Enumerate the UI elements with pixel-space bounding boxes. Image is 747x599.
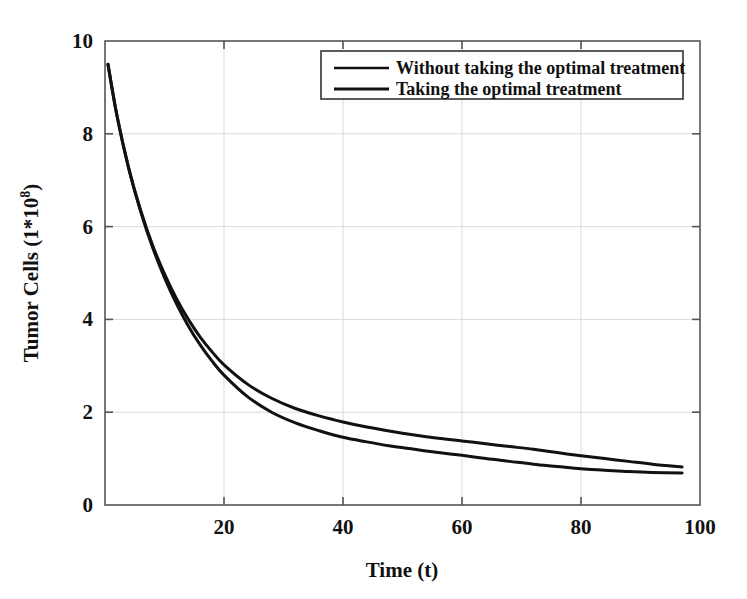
y-axis-title-base: Tumor Cells (1*10 xyxy=(19,198,43,363)
y-axis-title: Tumor Cells (1*108) xyxy=(18,184,43,363)
x-tick-label-20: 20 xyxy=(214,515,235,539)
y-tick-label-4: 4 xyxy=(83,307,94,331)
y-axis-title-close: ) xyxy=(19,184,43,191)
x-tick-label-40: 40 xyxy=(333,515,354,539)
y-tick-label-0: 0 xyxy=(83,493,94,517)
y-tick-labels: 0246810 xyxy=(72,29,94,517)
legend-label-1: Taking the optimal treatment xyxy=(396,79,622,99)
x-tick-label-100: 100 xyxy=(684,515,716,539)
legend-label-0: Without taking the optimal treatment xyxy=(396,58,685,78)
legend[interactable]: Without taking the optimal treatment Tak… xyxy=(321,51,685,99)
y-tick-label-6: 6 xyxy=(83,215,94,239)
y-axis-title-text: Tumor Cells (1*108) xyxy=(18,184,43,363)
y-tick-label-2: 2 xyxy=(83,400,94,424)
y-tick-label-10: 10 xyxy=(72,29,93,53)
chart-canvas: 20406080100 0246810 Time (t) Tumor Cells… xyxy=(0,0,747,599)
chart-figure: 20406080100 0246810 Time (t) Tumor Cells… xyxy=(0,0,747,599)
x-tick-labels: 20406080100 xyxy=(214,515,716,539)
plot-area-background xyxy=(105,41,700,505)
x-axis-title: Time (t) xyxy=(366,558,439,582)
y-axis-title-exponent: 8 xyxy=(18,191,33,198)
x-tick-label-80: 80 xyxy=(571,515,592,539)
x-tick-label-60: 60 xyxy=(452,515,473,539)
y-tick-label-8: 8 xyxy=(83,122,94,146)
